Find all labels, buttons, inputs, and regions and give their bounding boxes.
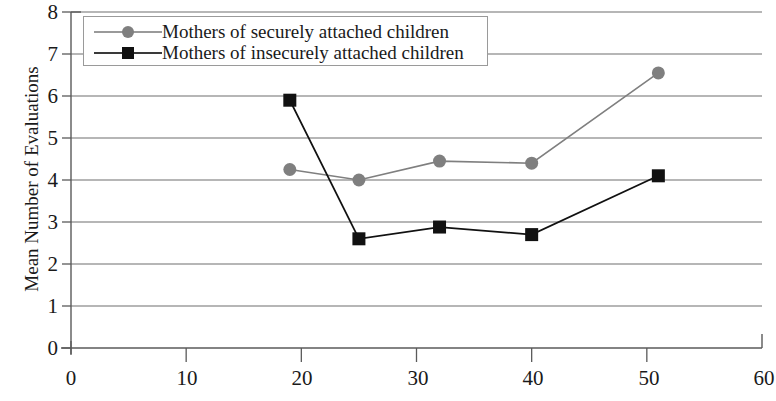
circle-marker-icon	[122, 26, 134, 38]
data-point-1-4	[652, 169, 665, 182]
series-line-1	[290, 100, 659, 239]
data-point-0-2	[433, 155, 446, 168]
series-line-0	[290, 73, 659, 180]
legend-entry-insecure: Mothers of insecurely attached children	[94, 41, 464, 64]
data-point-0-1	[352, 174, 365, 187]
legend-key-insecure	[94, 43, 162, 63]
data-point-0-3	[525, 157, 538, 170]
data-point-1-2	[433, 221, 446, 234]
legend-entry-secure: Mothers of securely attached children	[94, 20, 449, 43]
chart-container: Mean Number of Evaluations 8 7 6 5 4 3 2…	[0, 0, 776, 401]
data-point-1-1	[352, 232, 365, 245]
legend-label-insecure: Mothers of insecurely attached children	[162, 43, 464, 63]
data-series-layer	[283, 66, 665, 245]
data-point-1-3	[525, 228, 538, 241]
data-point-0-0	[283, 163, 296, 176]
data-point-1-0	[283, 94, 296, 107]
square-marker-icon	[122, 47, 134, 59]
data-point-0-4	[652, 66, 665, 79]
legend: Mothers of securely attached children Mo…	[83, 16, 488, 66]
legend-key-secure	[94, 22, 162, 42]
legend-label-secure: Mothers of securely attached children	[162, 22, 449, 42]
